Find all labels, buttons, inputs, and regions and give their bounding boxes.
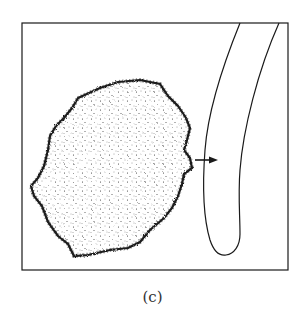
figure-caption: (c) (0, 288, 305, 306)
direction-arrow (195, 157, 218, 164)
diagram-figure (0, 0, 305, 331)
tube-wall (204, 23, 279, 255)
irregular-stippled-particle (31, 80, 192, 256)
